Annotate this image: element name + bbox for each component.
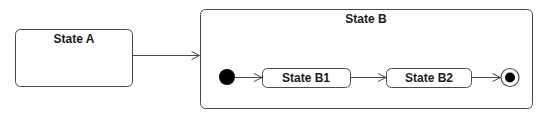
final-node-icon[interactable] <box>501 69 519 87</box>
state-b-label: State B <box>345 12 387 26</box>
state-b[interactable]: State B <box>201 10 533 109</box>
state-b1[interactable]: State B1 <box>263 69 351 88</box>
initial-node-icon[interactable] <box>219 69 235 85</box>
state-b2-label: State B2 <box>405 71 453 85</box>
state-diagram-canvas: State A State B State B1 State B2 <box>0 0 547 117</box>
state-b1-label: State B1 <box>282 71 330 85</box>
state-b2[interactable]: State B2 <box>387 69 472 88</box>
state-a[interactable]: State A <box>16 30 133 87</box>
state-a-label: State A <box>54 32 95 46</box>
